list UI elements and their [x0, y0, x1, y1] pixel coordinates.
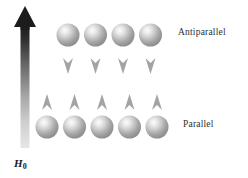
- spin-row-parallel: [36, 94, 169, 158]
- field-label-subscript: 0: [23, 162, 27, 171]
- spin-unit-up: [36, 94, 59, 158]
- spin-unit-up: [91, 94, 114, 158]
- spin-sphere: [118, 116, 141, 139]
- spin-sphere: [36, 116, 59, 139]
- spin-sphere: [112, 24, 135, 47]
- spin-unit-down: [84, 10, 107, 74]
- spin-sphere: [57, 24, 80, 47]
- spin-unit-down: [112, 10, 135, 74]
- spin-sphere: [91, 116, 114, 139]
- field-arrow-head: [14, 6, 36, 30]
- spin-sphere: [63, 116, 86, 139]
- nuclear-spin-alignment-diagram: Antiparallel Parallel H0: [0, 0, 248, 178]
- field-arrow-shaft: [21, 22, 30, 148]
- field-label-h0: H0: [14, 157, 27, 171]
- spin-unit-up: [118, 94, 141, 158]
- row-label-antiparallel: Antiparallel: [178, 27, 226, 37]
- row-label-parallel: Parallel: [183, 119, 214, 129]
- spin-unit-up: [63, 94, 86, 158]
- field-label-symbol: H: [14, 157, 23, 169]
- field-arrow-h0: [14, 6, 36, 148]
- spin-sphere: [84, 24, 107, 47]
- spin-unit-up: [146, 94, 169, 158]
- spin-sphere: [146, 116, 169, 139]
- spin-unit-down: [57, 10, 80, 74]
- spin-unit-down: [139, 10, 162, 74]
- spin-sphere: [139, 24, 162, 47]
- spin-row-antiparallel: [57, 10, 163, 74]
